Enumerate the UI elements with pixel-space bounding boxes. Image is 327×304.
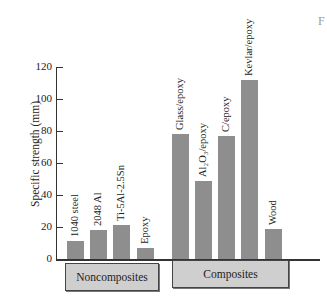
y-tick [57, 259, 63, 260]
bar-label: Al₂O₃/epoxy [197, 123, 209, 177]
bar-label: 1040 steel [69, 195, 81, 238]
y-tick [57, 195, 63, 196]
y-tick [57, 163, 63, 164]
y-tick-label: 100 [30, 93, 52, 104]
bar [90, 230, 107, 259]
y-tick-label: 40 [30, 189, 52, 200]
y-tick [57, 131, 63, 132]
bar [218, 136, 235, 259]
group-noncomposites: Noncomposites [65, 263, 159, 291]
bar [195, 181, 212, 259]
bar-label: Kevlar/epoxy [243, 19, 255, 76]
bar-label: Epoxy [139, 216, 151, 243]
bar-label: Wood [267, 200, 279, 225]
bar-label: Ti-5Al-2.5Sn [115, 165, 127, 221]
bar [265, 229, 282, 259]
bar-label: 2048 Al [92, 193, 104, 227]
bar [137, 248, 154, 259]
y-tick [57, 99, 63, 100]
bar [241, 80, 258, 259]
page-corner-mark: F [318, 14, 325, 29]
y-tick-label: 0 [30, 253, 52, 264]
y-tick-label: 120 [30, 61, 52, 72]
bar [113, 225, 130, 259]
bar [67, 241, 84, 259]
y-tick [57, 67, 63, 68]
y-tick-label: 20 [30, 221, 52, 232]
y-tick-label: 60 [30, 157, 52, 168]
bar [172, 134, 189, 259]
group-composites: Composites [172, 260, 289, 288]
y-tick [57, 227, 63, 228]
bar-label: Glass/epoxy [174, 78, 186, 130]
bar-label: C/epoxy [220, 96, 232, 132]
y-tick-label: 80 [30, 125, 52, 136]
